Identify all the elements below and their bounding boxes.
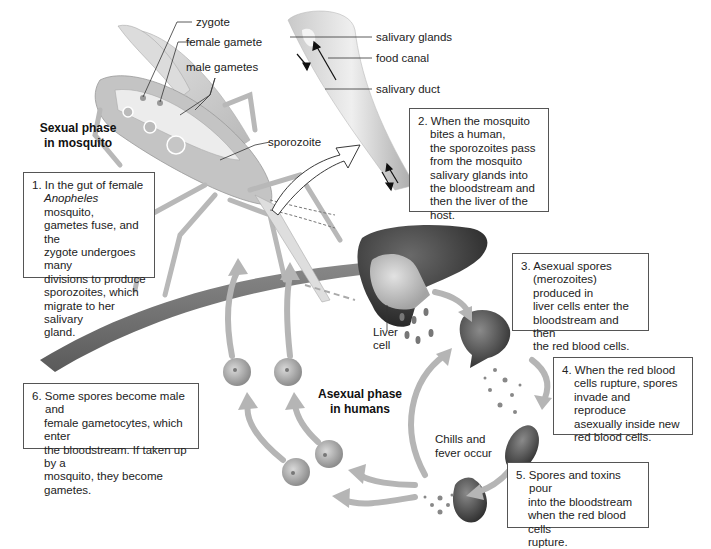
step-6-text: Some spores become male and — [45, 390, 185, 415]
step-4-line: cells rupture, spores — [562, 377, 684, 390]
step-1-line: zygote undergoes many — [32, 246, 146, 273]
step-1-species-name: Anopheles — [44, 192, 98, 204]
step-1-line: gametes fuse, and the — [32, 219, 146, 246]
label-sporozoite: sporozoite — [268, 136, 321, 149]
step-1-line: sporozoites, which — [32, 286, 146, 299]
chills-line-1: Chills and — [435, 432, 492, 446]
label-salivary-glands: salivary glands — [376, 31, 452, 44]
step-5-line: when the red blood cells — [516, 509, 640, 536]
step-2-first-line: 2. When the mosquito — [418, 115, 540, 128]
asexual-phase-label: Asexual phase in humans — [305, 387, 415, 417]
label-salivary-duct: salivary duct — [376, 83, 440, 96]
liver-label-line-2: cell — [373, 339, 398, 352]
chills-line-2: fever occur — [435, 446, 492, 460]
step-3-box: 3. Asexual spores (merozoites) produced … — [512, 253, 649, 331]
asexual-phase-line-1: Asexual phase — [305, 387, 415, 402]
sexual-phase-line-1: Sexual phase — [28, 121, 128, 136]
step-6-number: 6. — [32, 390, 42, 402]
step-2-line: then the liver of the host. — [418, 195, 540, 222]
step-6-line: the bloodstream. If taken up by a — [32, 444, 190, 471]
step-4-line: invade and reproduce — [562, 391, 684, 418]
liver-label-line-1: Liver — [373, 326, 398, 339]
step-5-box: 5. Spores and toxins pour into the blood… — [507, 462, 649, 528]
step-3-text: Asexual spores — [533, 260, 612, 272]
step-1-number: 1. — [32, 179, 42, 191]
sexual-phase-label: Sexual phase in mosquito — [28, 121, 128, 151]
step-3-number: 3. — [521, 260, 531, 272]
step-6-first-line: 6. Some spores become male and — [32, 390, 190, 417]
step-1-first-line: 1. In the gut of female — [32, 179, 146, 192]
step-6-box: 6. Some spores become male and female ga… — [23, 383, 199, 449]
step-3-line: bloodstream and then — [521, 314, 640, 341]
step-2-line: the bloodstream and — [418, 182, 540, 195]
step-4-line: red blood cells. — [562, 431, 684, 444]
step-2-line: the sporozoites pass — [418, 142, 540, 155]
label-liver-cell: Liver cell — [373, 326, 398, 352]
step-1-line: gland. — [32, 326, 146, 339]
step-4-box: 4. When the red blood cells rupture, spo… — [553, 357, 693, 435]
step-5-number: 5. — [516, 469, 526, 481]
step-3-line: (merozoites) produced in — [521, 273, 640, 300]
sexual-phase-line-2: in mosquito — [28, 136, 128, 151]
step-4-line: asexually inside new — [562, 418, 684, 431]
step-2-number: 2. — [418, 115, 428, 127]
step-1-line: migrate to her salivary — [32, 300, 146, 327]
step-5-line: into the bloodstream — [516, 496, 640, 509]
step-2-text: When the mosquito — [431, 115, 530, 127]
step-1-text-2: mosquito, — [44, 206, 94, 218]
label-chills-fever: Chills and fever occur — [435, 432, 492, 460]
step-6-line: female gametocytes, which enter — [32, 417, 190, 444]
label-food-canal: food canal — [376, 52, 429, 65]
step-5-line: rupture. — [516, 536, 640, 549]
label-male-gametes: male gametes — [186, 61, 258, 74]
step-4-text: When the red blood — [575, 364, 675, 376]
step-6-line: mosquito, they become gametes. — [32, 470, 190, 497]
step-4-first-line: 4. When the red blood — [562, 364, 684, 377]
step-1-text-1: In the gut of female — [45, 179, 143, 191]
label-zygote: zygote — [196, 16, 230, 29]
step-5-text: Spores and toxins pour — [529, 469, 621, 494]
asexual-phase-line-2: in humans — [305, 402, 415, 417]
step-2-box: 2. When the mosquito bites a human, the … — [409, 108, 549, 212]
step-5-first-line: 5. Spores and toxins pour — [516, 469, 640, 496]
step-3-first-line: 3. Asexual spores — [521, 260, 640, 273]
step-3-line: liver cells enter the — [521, 300, 640, 313]
step-2-line: bites a human, — [418, 128, 540, 141]
step-3-line: the red blood cells. — [521, 340, 640, 353]
step-2-line: salivary glands into — [418, 169, 540, 182]
label-female-gamete: female gamete — [186, 36, 262, 49]
step-4-number: 4. — [562, 364, 572, 376]
step-2-line: from the mosquito — [418, 155, 540, 168]
step-1-line: divisions to produce — [32, 273, 146, 286]
step-1-species-line: Anopheles mosquito, — [32, 192, 146, 219]
step-1-box: 1. In the gut of female Anopheles mosqui… — [23, 172, 155, 278]
